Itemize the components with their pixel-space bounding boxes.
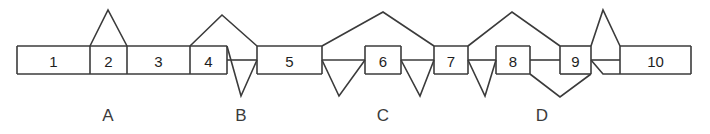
segment-label-6: 6 [379, 53, 387, 70]
peak-above-segment-8 [468, 12, 560, 46]
diagram-canvas: 12345678910 ABCD [0, 0, 710, 134]
peak-above-segment-9 [591, 10, 620, 46]
segment-label-9: 9 [571, 53, 579, 70]
peak-above-segment-2 [90, 10, 127, 46]
segment-label-7: 7 [447, 53, 455, 70]
segment-label-3: 3 [154, 53, 162, 70]
chromosome-loop-diagram: 12345678910 ABCD [0, 0, 710, 134]
vee-below-segment-5 [322, 60, 365, 96]
loops-above-group [90, 10, 620, 46]
segment-label-8: 8 [509, 53, 517, 70]
peak-above-segment-6 [322, 12, 434, 46]
vee-below-segment-6 [401, 60, 434, 96]
vee-below-segment-9 [591, 60, 620, 74]
peak-above-segment-4 [190, 15, 257, 46]
region-labels-group: ABCD [102, 106, 548, 125]
segment-label-10: 10 [647, 53, 664, 70]
vee-below-segment-8 [530, 74, 591, 97]
region-label-A: A [102, 106, 114, 125]
region-label-D: D [536, 106, 548, 125]
segment-label-5: 5 [285, 53, 293, 70]
segment-label-1: 1 [49, 53, 57, 70]
region-label-C: C [377, 106, 389, 125]
segment-labels-group: 12345678910 [49, 53, 664, 70]
vee-below-segment-7 [468, 60, 496, 96]
vee-below-segment-4 [227, 46, 257, 96]
segment-label-4: 4 [204, 53, 212, 70]
segment-label-2: 2 [104, 53, 112, 70]
region-label-B: B [235, 106, 246, 125]
